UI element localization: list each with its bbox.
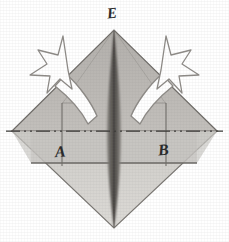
diagram-canvas [0,0,229,242]
vertex-label-e: E [106,6,118,22]
vertex-label-a: A [54,144,66,161]
origami-diagram: E A B [0,0,229,242]
vertex-label-b: B [157,142,169,159]
